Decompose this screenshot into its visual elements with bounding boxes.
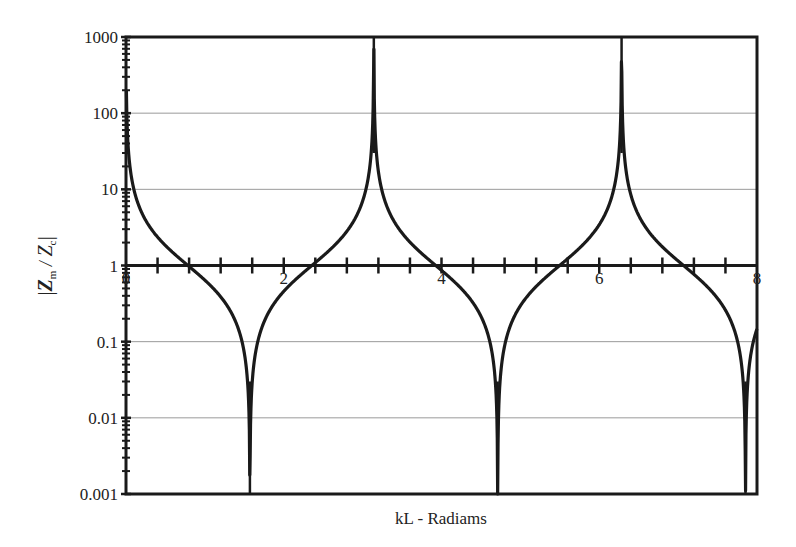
- x-tick-label: 2: [280, 269, 289, 288]
- x-tick-label: 0: [122, 269, 131, 288]
- x-axis-title: kL - Radiams: [395, 509, 487, 528]
- svg-text:|Zm / Zc|: |Zm / Zc|: [32, 236, 58, 296]
- y-axis-title-z1: Z: [34, 279, 56, 292]
- y-tick-label: 0.1: [97, 333, 118, 352]
- y-tick-labels: 0.0010.010.11101001000: [80, 28, 118, 504]
- x-tick-label: 4: [437, 269, 446, 288]
- y-axis-title: |Zm / Zc|: [32, 236, 58, 296]
- y-tick-label: 0.01: [88, 409, 118, 428]
- x-tick-label: 6: [595, 269, 604, 288]
- impedance-ratio-chart: 0.0010.010.11101001000 02468 kL - Radiam…: [0, 0, 796, 547]
- y-tick-label: 0.001: [80, 485, 118, 504]
- y-axis-title-bar-right: |: [32, 236, 57, 240]
- y-tick-label: 100: [93, 104, 119, 123]
- y-tick-label: 1: [110, 257, 119, 276]
- y-axis-title-slash: /: [36, 257, 56, 271]
- y-tick-label: 10: [101, 180, 118, 199]
- x-tick-label: 8: [753, 269, 762, 288]
- y-tick-label: 1000: [84, 28, 118, 47]
- x-tick-labels: 02468: [122, 269, 762, 288]
